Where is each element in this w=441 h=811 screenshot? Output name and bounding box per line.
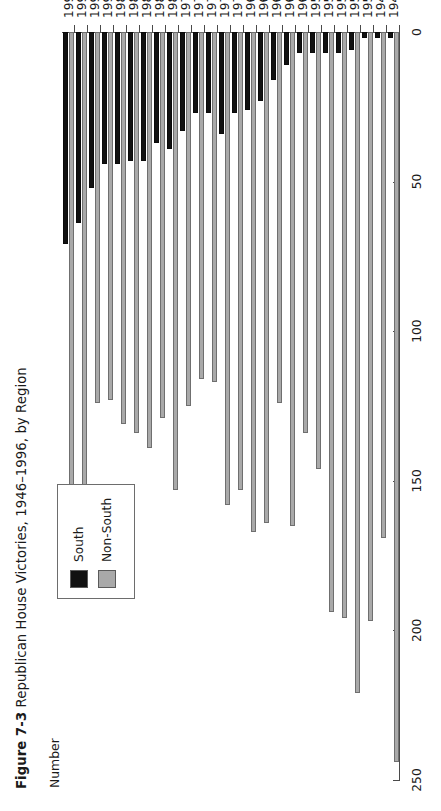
category-label: 1988: [114, 0, 128, 18]
value-axis-title: Number: [47, 738, 62, 788]
category-label: 1946: [387, 0, 401, 18]
category-tick: [282, 25, 283, 32]
bar-non-south: [329, 32, 334, 612]
bar-south: [362, 32, 367, 38]
category-tick: [308, 25, 309, 32]
category-label: 1958: [309, 0, 323, 18]
bar-non-south: [368, 32, 373, 621]
category-tick: [87, 25, 88, 32]
category-label: 1966: [257, 0, 271, 18]
category-label: 1994: [75, 0, 89, 18]
bar-non-south: [69, 32, 74, 499]
category-label: 1982: [153, 0, 167, 18]
bar-non-south: [277, 32, 282, 403]
bar-non-south: [82, 32, 87, 529]
category-label: 1990: [101, 0, 115, 18]
category-tick: [204, 25, 205, 32]
category-tick: [321, 25, 322, 32]
bar-south: [297, 32, 302, 53]
bar-non-south: [238, 32, 243, 490]
category-label: 1976: [192, 0, 206, 18]
value-tick-label: 50: [410, 174, 424, 190]
value-tick-label: 250: [410, 768, 424, 791]
category-label: 1968: [244, 0, 258, 18]
bar-non-south: [108, 32, 113, 400]
bar-south: [115, 32, 120, 164]
category-tick: [113, 25, 114, 32]
bar-non-south: [186, 32, 191, 406]
bar-south: [167, 32, 172, 149]
bar-south: [349, 32, 354, 50]
bar-non-south: [342, 32, 347, 618]
category-tick: [243, 25, 244, 32]
category-label: 1960: [296, 0, 310, 18]
bar-south: [63, 32, 68, 244]
bar-non-south: [381, 32, 386, 538]
figure-canvas: Figure 7-3 Republican House Victories, 1…: [0, 0, 441, 811]
category-label: 1992: [88, 0, 102, 18]
value-tick-label: 150: [410, 469, 424, 492]
category-tick: [386, 25, 387, 32]
category-tick: [295, 25, 296, 32]
category-tick: [399, 25, 400, 32]
bar-south: [89, 32, 94, 188]
category-label: 1980: [166, 0, 180, 18]
bar-non-south: [95, 32, 100, 403]
bar-non-south: [316, 32, 321, 469]
bar-south: [245, 32, 250, 110]
bar-south: [336, 32, 341, 53]
bar-south: [388, 32, 393, 38]
bar-south: [375, 32, 380, 38]
bar-non-south: [303, 32, 308, 433]
category-tick: [269, 25, 270, 32]
category-label: 1984: [140, 0, 154, 18]
bar-south: [284, 32, 289, 65]
category-label: 1956: [322, 0, 336, 18]
category-tick: [126, 25, 127, 32]
category-label: 1950: [361, 0, 375, 18]
category-label: 1986: [127, 0, 141, 18]
category-label: 1962: [283, 0, 297, 18]
bar-non-south: [199, 32, 204, 379]
bar-south: [310, 32, 315, 53]
category-tick: [178, 25, 179, 32]
figure-caption: Republican House Victories, 1946–1996, b…: [14, 367, 29, 707]
category-label: 1970: [231, 0, 245, 18]
bar-non-south: [121, 32, 126, 424]
value-tick: [393, 780, 400, 781]
bar-south: [154, 32, 159, 143]
plot-area: 250200150100500 194619481950195219541956…: [62, 32, 400, 780]
legend: SouthNon-South: [57, 484, 135, 599]
category-tick: [217, 25, 218, 32]
bar-non-south: [251, 32, 256, 532]
legend-label: Non-South: [100, 498, 114, 562]
legend-label: South: [72, 527, 86, 562]
category-label: 1954: [335, 0, 349, 18]
category-tick: [191, 25, 192, 32]
category-tick: [334, 25, 335, 32]
bar-south: [193, 32, 198, 113]
category-tick: [139, 25, 140, 32]
bar-south: [206, 32, 211, 113]
bar-south: [180, 32, 185, 131]
bar-non-south: [173, 32, 178, 490]
category-label: 1974: [205, 0, 219, 18]
value-tick-label: 200: [410, 619, 424, 642]
category-tick: [165, 25, 166, 32]
bar-south: [271, 32, 276, 80]
category-tick: [256, 25, 257, 32]
figure-title: Figure 7-3 Republican House Victories, 1…: [14, 29, 36, 789]
bar-non-south: [394, 32, 399, 762]
bar-south: [219, 32, 224, 134]
category-label: 1996: [62, 0, 76, 18]
bar-non-south: [134, 32, 139, 433]
category-label: 1972: [218, 0, 232, 18]
bar-south: [258, 32, 263, 101]
bar-non-south: [264, 32, 269, 523]
legend-swatch-south: [70, 570, 88, 588]
category-label: 1978: [179, 0, 193, 18]
figure-rotator: Figure 7-3 Republican House Victories, 1…: [0, 0, 441, 811]
bar-south: [76, 32, 81, 223]
category-label: 1948: [374, 0, 388, 18]
figure-number: Figure 7-3: [14, 712, 29, 789]
